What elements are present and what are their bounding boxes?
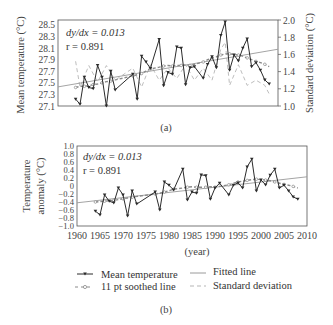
series-line-smoothed xyxy=(95,179,297,202)
mean-temperature-point xyxy=(157,38,161,41)
mean-temperature-point xyxy=(241,47,245,50)
smoothed-point xyxy=(74,86,77,89)
panel-b-y-axis-label-line2: anomaly (°C) xyxy=(35,157,47,214)
panel-b-x-tick-label: 1990 xyxy=(205,230,225,241)
panel-a-y-tick-label: 27.9 xyxy=(38,55,55,65)
series-line-fitted xyxy=(58,49,278,87)
mean-temperature-point xyxy=(223,21,227,24)
panel-a-y2-tick-label: 1.2 xyxy=(283,84,295,94)
panel-b-caption: (b) xyxy=(160,304,173,316)
mean-temperature-point xyxy=(135,98,139,101)
series-line-fitted xyxy=(77,177,307,203)
smoothed-point xyxy=(205,186,208,189)
panel-a-y2-tick-label: 1.0 xyxy=(283,102,295,112)
panel-b-y-ticks: 1.00.80.60.40.20−0.2−0.4−0.6−0.8−1.0 xyxy=(59,141,75,231)
panel-a-caption: (a) xyxy=(160,122,172,134)
panel-a-y-tick-label: 28.1 xyxy=(38,44,55,54)
mean-temperature-point xyxy=(113,88,117,91)
mean-temperature-point xyxy=(100,76,104,79)
panel-b-slope-annotation: dy/dx = 0.013 xyxy=(83,151,142,162)
smoothed-point xyxy=(292,185,295,188)
mean-temperature-point xyxy=(135,203,139,206)
panel-b: Temperature anomaly (°C) (year) 1.00.80.… xyxy=(21,141,317,258)
panel-a-y-tick-label: 27.5 xyxy=(38,78,55,88)
mean-temperature-point xyxy=(219,34,223,37)
panel-b-x-tick-label: 2000 xyxy=(251,230,271,241)
panel-a-y2-tick-label: 1.6 xyxy=(283,50,295,60)
panel-b-x-tick-label: 1980 xyxy=(159,230,179,241)
smoothed-point xyxy=(246,179,249,182)
panel-a-y-tick-label: 28.5 xyxy=(38,20,55,30)
panel-b-x-tick-label: 2010 xyxy=(297,230,317,241)
mean-temperature-point xyxy=(296,198,300,201)
mean-temperature-point xyxy=(267,83,271,86)
panel-b-x-ticks: 1960196519701975198019851990199520002005… xyxy=(67,230,317,241)
mean-temperature-point xyxy=(278,187,282,190)
panel-a-y-tick-label: 27.1 xyxy=(38,102,55,112)
panel-a-y2-ticks: 2.01.81.61.41.21.0 xyxy=(278,16,295,112)
mean-temperature-point xyxy=(245,165,249,168)
panel-a-y-tick-label: 28.3 xyxy=(38,32,55,42)
mean-temperature-point xyxy=(264,183,268,186)
mean-temperature-point xyxy=(206,63,210,66)
mean-temperature-point xyxy=(268,174,272,177)
panel-b-x-tick-label: 1985 xyxy=(182,230,202,241)
mean-temperature-point xyxy=(130,189,134,192)
legend-item-fitted-line: Fitted line xyxy=(190,266,256,277)
smoothed-point xyxy=(220,54,223,57)
legend-label-standard-deviation: Standard deviation xyxy=(213,280,293,291)
mean-temperature-point xyxy=(228,69,232,72)
panel-b-x-axis-label: (year) xyxy=(184,246,210,258)
mean-temperature-point xyxy=(83,76,87,79)
smoothed-point xyxy=(163,191,166,194)
series-line-smoothed xyxy=(76,54,270,88)
panel-a: Mean temperature (°C) Standard deviation… xyxy=(15,13,316,134)
panel-b-x-tick-label: 1970 xyxy=(113,230,133,241)
legend-item-smoothed-line: 11 pt soothed line xyxy=(75,281,176,292)
mean-temperature-point xyxy=(186,199,190,202)
mean-temperature-point xyxy=(209,198,213,201)
smoothed-point xyxy=(94,201,97,204)
smoothed-point xyxy=(162,65,165,68)
smoothed-point xyxy=(186,186,189,189)
panel-a-y2-tick-label: 2.0 xyxy=(283,16,295,26)
smoothed-point xyxy=(255,178,258,181)
panel-b-x-tick-label: 2005 xyxy=(274,230,294,241)
legend-marker-smoothed-line xyxy=(83,285,86,288)
legend: Mean temperature Fitted line 11 pt sooth… xyxy=(75,266,293,292)
panel-b-x-tick-label: 1995 xyxy=(228,230,248,241)
smoothed-point xyxy=(189,64,192,67)
smoothed-point xyxy=(246,57,249,60)
panel-b-y-axis-label-line1: Temperature xyxy=(21,159,32,212)
panel-a-slope-annotation: dy/dx = 0.013 xyxy=(66,27,125,38)
mean-temperature-point xyxy=(181,168,185,171)
mean-temperature-point xyxy=(215,66,219,69)
mean-temperature-point xyxy=(227,193,231,196)
mean-temperature-point xyxy=(255,189,259,192)
legend-item-standard-deviation: Standard deviation xyxy=(190,280,293,291)
panel-a-r-annotation: r = 0.891 xyxy=(66,41,104,52)
smoothed-point xyxy=(140,72,143,75)
panel-a-y2-tick-label: 1.8 xyxy=(283,33,295,43)
mean-temperature-point xyxy=(237,59,241,62)
panel-a-y-tick-label: 27.7 xyxy=(38,67,55,77)
legend-label-mean-temperature: Mean temperature xyxy=(101,269,178,280)
smoothed-point xyxy=(202,61,205,64)
mean-temperature-point xyxy=(162,84,166,87)
mean-temperature-point xyxy=(112,201,116,204)
smoothed-point xyxy=(264,179,267,182)
panel-a-y2-axis-label: Standard deviation (°C) xyxy=(304,13,316,113)
smoothed-point xyxy=(180,64,183,67)
panel-a-y2-tick-label: 1.4 xyxy=(283,67,295,77)
smoothed-point xyxy=(237,54,240,57)
legend-item-mean-temperature: Mean temperature xyxy=(77,269,178,280)
mean-temperature-point xyxy=(121,193,125,196)
panel-b-r-annotation: r = 0.891 xyxy=(83,165,121,176)
panel-a-y-axis-label: Mean temperature (°C) xyxy=(15,16,27,114)
smoothed-point xyxy=(264,63,267,66)
smoothed-point xyxy=(274,181,277,184)
legend-label-fitted-line: Fitted line xyxy=(213,266,256,277)
panel-b-x-tick-label: 1960 xyxy=(67,230,87,241)
panel-b-x-tick-label: 1965 xyxy=(90,230,110,241)
panel-b-x-tick-label: 1975 xyxy=(136,230,156,241)
